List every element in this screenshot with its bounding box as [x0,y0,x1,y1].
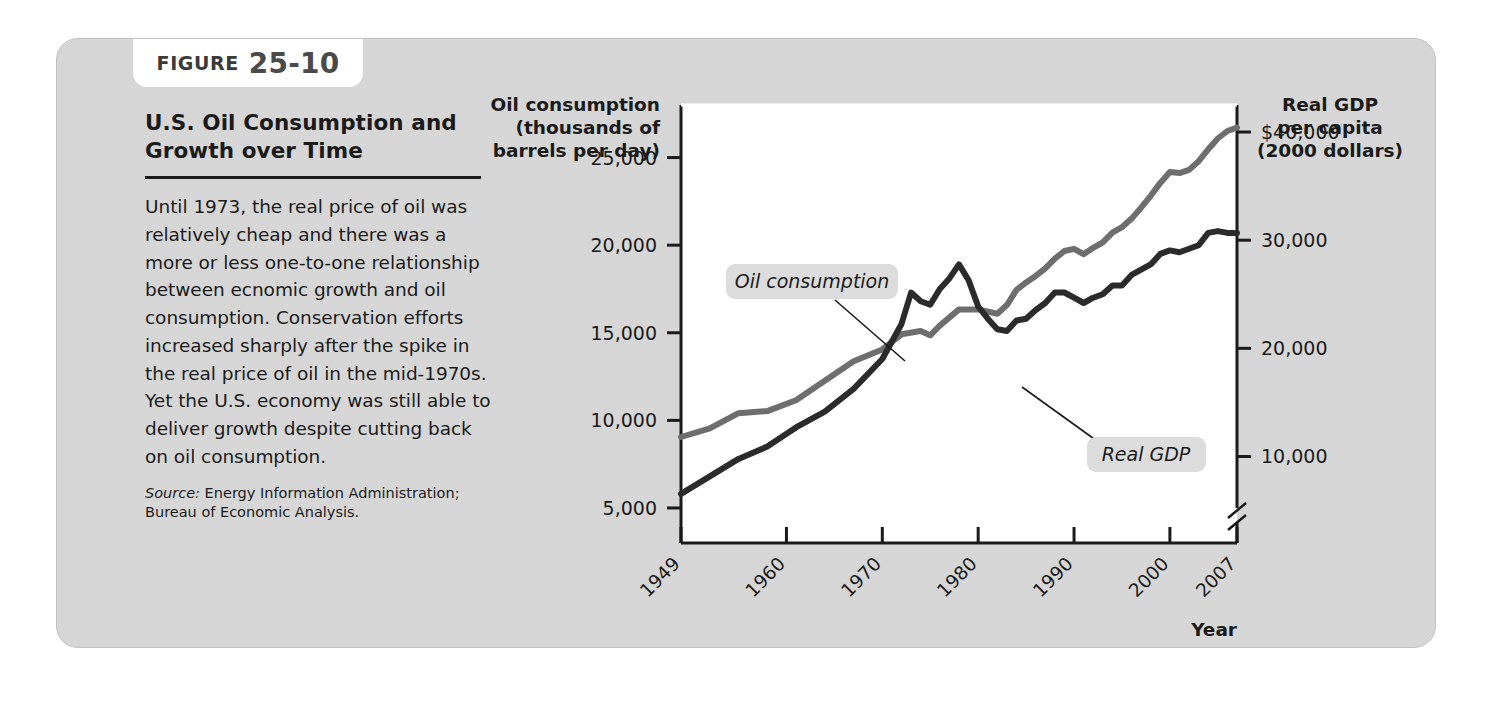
figure-label-word: FIGURE [157,52,239,74]
caption-source: Source: Energy Information Administratio… [145,484,495,524]
figure-card: FIGURE 25-10 U.S. Oil Consumption and Gr… [56,38,1436,648]
figure-number: 25-10 [249,47,340,80]
caption-title: U.S. Oil Consumption and Growth over Tim… [145,109,495,164]
caption-source-prefix: Source: [145,485,200,501]
caption-body: Until 1973, the real price of oil was re… [145,193,495,471]
caption-title-line-1: U.S. Oil Consumption and [145,109,495,137]
caption-block: U.S. Oil Consumption and Growth over Tim… [145,109,495,523]
caption-title-line-2: Growth over Time [145,137,495,165]
caption-divider [145,176,481,179]
figure-root: FIGURE 25-10 U.S. Oil Consumption and Gr… [0,0,1493,719]
figure-number-pill: FIGURE 25-10 [133,39,363,87]
